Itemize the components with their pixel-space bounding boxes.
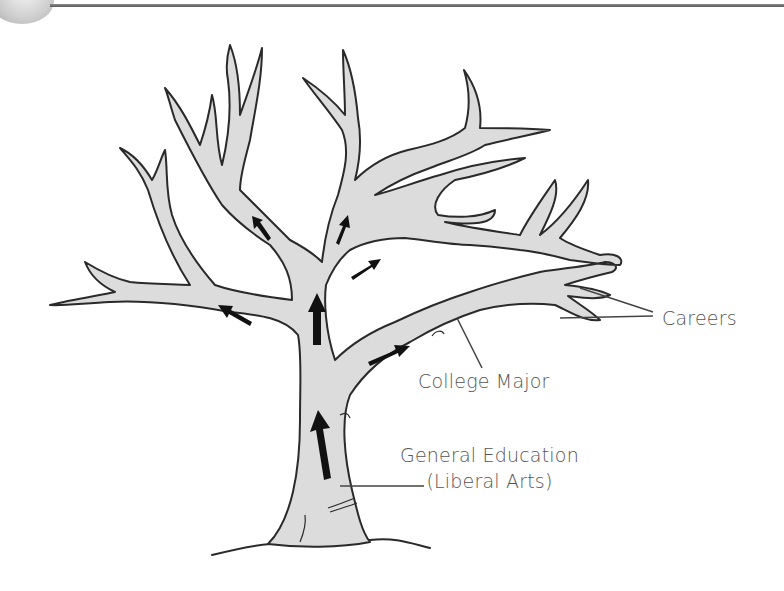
label-general-education-line1: General Education xyxy=(400,442,579,468)
tree-diagram xyxy=(0,0,784,591)
arrow-right-icon xyxy=(351,259,381,280)
label-general-education-line2: (Liberal Arts) xyxy=(400,468,579,494)
label-careers: Careers xyxy=(662,307,737,329)
label-general-education: General Education (Liberal Arts) xyxy=(400,442,579,494)
label-college-major: College Major xyxy=(418,370,550,392)
